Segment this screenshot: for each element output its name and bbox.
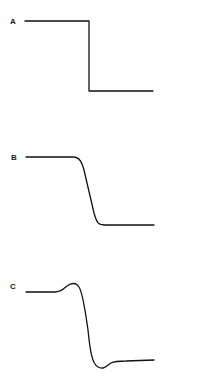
panel-b-waveform xyxy=(26,157,154,225)
panel-c-waveform xyxy=(26,284,154,369)
panel-a-waveform xyxy=(25,21,153,91)
waveforms xyxy=(0,0,207,384)
